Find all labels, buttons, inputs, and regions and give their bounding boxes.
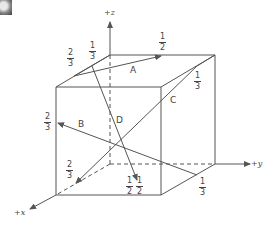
x-axis-label: +x xyxy=(14,208,25,217)
hidden-edge-x xyxy=(56,164,110,195)
fraction-label: 12 xyxy=(159,33,166,52)
fraction-label: 13 xyxy=(89,42,96,61)
fraction-label: 23 xyxy=(67,49,74,68)
vector-label-c: C xyxy=(170,96,176,105)
fraction-label: 23 xyxy=(66,161,73,180)
z-axis-label: +z xyxy=(104,8,115,17)
vector-d xyxy=(92,66,137,180)
cube-edge xyxy=(161,164,215,195)
fraction-label: 12 xyxy=(126,177,133,196)
vector-b xyxy=(58,123,197,175)
y-axis-label: +y xyxy=(251,159,262,168)
vector-c xyxy=(76,66,197,183)
vector-label-b: B xyxy=(78,120,84,129)
vector-label-d: D xyxy=(116,116,123,125)
fraction-label: 23 xyxy=(44,113,51,132)
vector-c-guide xyxy=(197,55,215,66)
vector-label-a: A xyxy=(130,66,136,75)
fraction-label: 13 xyxy=(199,178,206,197)
x-axis xyxy=(30,195,56,209)
cube-diagram xyxy=(0,0,269,227)
fraction-label: 12 xyxy=(136,177,143,196)
vector-a xyxy=(74,56,161,76)
fraction-label: 13 xyxy=(194,72,201,91)
